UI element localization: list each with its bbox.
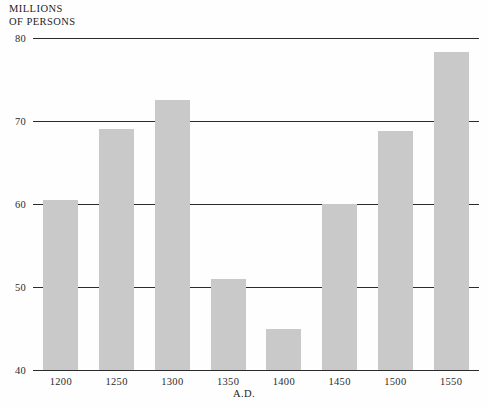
x-tick-label-1350: 1350 <box>217 376 239 387</box>
y-tick-label-80: 80 <box>15 33 26 44</box>
bar-1350 <box>211 279 246 370</box>
bar-chart-figure: MILLIONS OF PERSONS 4050607080 120012501… <box>0 0 488 409</box>
y-tick-label-60: 60 <box>15 199 26 210</box>
x-tick-label-1550: 1550 <box>440 376 462 387</box>
y-axis-title-line-1: MILLIONS <box>9 3 76 16</box>
gridline-80 <box>33 38 479 39</box>
x-tick-label-1250: 1250 <box>106 376 128 387</box>
x-tick-label-1200: 1200 <box>50 376 72 387</box>
bar-1400 <box>266 329 301 371</box>
x-axis-line <box>33 370 479 371</box>
x-tick-label-1500: 1500 <box>384 376 406 387</box>
bar-1200 <box>43 200 78 370</box>
x-tick-label-1400: 1400 <box>273 376 295 387</box>
bar-1250 <box>99 129 134 370</box>
y-tick-label-40: 40 <box>15 365 26 376</box>
bar-1550 <box>434 52 469 370</box>
y-axis-title: MILLIONS OF PERSONS <box>9 3 76 28</box>
y-tick-label-50: 50 <box>15 282 26 293</box>
x-axis-title: A.D. <box>0 388 488 399</box>
bar-1300 <box>155 100 190 370</box>
x-tick-label-1300: 1300 <box>161 376 183 387</box>
x-tick-label-1450: 1450 <box>329 376 351 387</box>
plot-area: 4050607080 12001250130013501400145015001… <box>33 38 479 370</box>
y-axis-title-line-2: OF PERSONS <box>9 16 76 29</box>
y-tick-label-70: 70 <box>15 116 26 127</box>
bar-1450 <box>322 204 357 370</box>
gridline-70 <box>33 121 479 122</box>
bar-1500 <box>378 131 413 370</box>
